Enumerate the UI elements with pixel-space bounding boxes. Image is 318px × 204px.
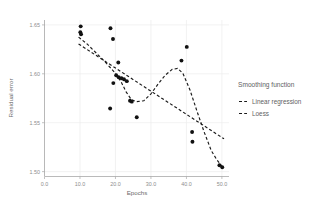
x-tick-label-5: 50.0 <box>217 181 228 187</box>
y-tick-label-0: 1.65 <box>30 22 41 28</box>
data-point <box>116 61 120 65</box>
legend-title: Smoothing function <box>238 81 295 89</box>
data-point <box>111 81 115 85</box>
x-tick-label-0: 0.0 <box>41 181 49 187</box>
x-axis-title: Epochs <box>127 189 148 196</box>
x-tick-label-2: 20.0 <box>110 181 121 187</box>
data-point <box>109 26 113 30</box>
chart-figure: 1.651.601.551.50 0.010.020.030.040.050.0… <box>0 0 318 204</box>
data-point <box>191 140 195 144</box>
data-point <box>130 100 134 104</box>
residual-error-scatter-plot: 1.651.601.551.50 0.010.020.030.040.050.0… <box>0 0 318 204</box>
x-tick-label-3: 30.0 <box>146 181 157 187</box>
legend-label-linear-regression: Linear regression <box>252 98 302 106</box>
data-point <box>125 79 129 83</box>
x-tick-label-4: 40.0 <box>181 181 192 187</box>
data-point <box>111 37 115 41</box>
data-point <box>180 59 184 63</box>
data-point <box>190 130 194 134</box>
y-tick-label-2: 1.55 <box>30 120 41 126</box>
data-point <box>220 165 224 169</box>
y-tick-label-3: 1.50 <box>30 169 41 175</box>
data-point <box>108 107 112 111</box>
y-tick-label-1: 1.60 <box>30 71 41 77</box>
y-axis-title: Residual error <box>7 79 14 118</box>
data-point <box>79 32 83 36</box>
data-point <box>135 115 139 119</box>
x-tick-label-1: 10.0 <box>75 181 86 187</box>
data-point <box>79 24 83 28</box>
data-point <box>185 45 189 49</box>
legend-label-loess: Loess <box>252 110 269 117</box>
